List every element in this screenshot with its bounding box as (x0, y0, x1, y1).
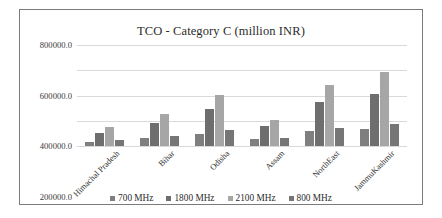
bar (370, 94, 379, 146)
x-axis-label: Odisha (208, 149, 231, 172)
y-axis-tick-label: 800000.0 (40, 40, 72, 50)
y-axis-tick-label: 400000.0 (40, 141, 72, 151)
bar (335, 128, 344, 146)
bar-group (132, 45, 187, 146)
bar (360, 129, 369, 146)
bar (95, 133, 104, 146)
bar (305, 131, 314, 146)
bar-group (297, 45, 352, 146)
plot-area: 800000.0600000.0400000.0200000.00.0 (77, 45, 407, 146)
bar (215, 95, 224, 146)
legend-swatch-icon (110, 196, 115, 201)
x-axis-label: NorthEast (310, 149, 340, 179)
bar (195, 134, 204, 146)
bar (140, 138, 149, 146)
legend-item[interactable]: 700 MHz (110, 193, 153, 203)
bar (270, 120, 279, 147)
legend-item[interactable]: 800 MHz (289, 193, 332, 203)
bar (250, 139, 259, 146)
legend-item[interactable]: 1800 MHz (166, 193, 214, 203)
x-axis-label: JammuKashmir (352, 149, 396, 193)
y-axis-tick-label: 600000.0 (40, 91, 72, 101)
bar (160, 114, 169, 146)
bar (225, 130, 234, 146)
bar-group (77, 45, 132, 146)
bar (390, 124, 399, 146)
legend-swatch-icon (228, 196, 233, 201)
bar-groups (77, 45, 407, 146)
x-axis-label: Himachal Pradesh (71, 149, 121, 199)
legend-label: 700 MHz (118, 193, 153, 203)
bar (315, 102, 324, 146)
y-axis-tick-label: 200000.0 (40, 192, 72, 202)
legend-label: 2100 MHz (236, 193, 276, 203)
bar (380, 72, 389, 146)
bar (205, 109, 214, 146)
x-axis-label: Bihar (156, 149, 176, 169)
bar-group (242, 45, 297, 146)
bar (280, 138, 289, 146)
chart-title: TCO - Category C (million INR) (20, 24, 422, 39)
bar-group (352, 45, 407, 146)
legend-label: 800 MHz (297, 193, 332, 203)
bar-group (187, 45, 242, 146)
legend-swatch-icon (289, 196, 294, 201)
bar (260, 126, 269, 146)
x-axis-label: Assam (263, 149, 285, 171)
bar (325, 85, 334, 146)
bar (170, 136, 179, 146)
chart-container: TCO - Category C (million INR) 800000.06… (19, 9, 423, 205)
bar (105, 127, 114, 146)
legend-swatch-icon (166, 196, 171, 201)
legend-item[interactable]: 2100 MHz (228, 193, 276, 203)
legend-label: 1800 MHz (174, 193, 214, 203)
bar (150, 123, 159, 146)
